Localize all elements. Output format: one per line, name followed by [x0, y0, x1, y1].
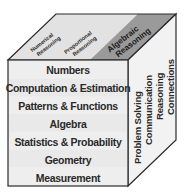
front-label-numbers: Numbers	[46, 64, 90, 76]
front-label-measurement: Measurement	[36, 172, 101, 184]
right-label-problem-solving: Problem Solving	[132, 91, 143, 164]
front-label-computation-estimation: Computation & Estimation	[6, 82, 131, 94]
right-label-communication: Communication	[143, 75, 154, 145]
front-label-geometry: Geometry	[45, 154, 92, 166]
front-label-algebra: Algebra	[50, 118, 87, 130]
right-label-connections: Connections	[165, 59, 176, 115]
right-label-reasoning: Reasoning	[154, 72, 165, 120]
front-label-patterns-functions: Patterns & Functions	[18, 100, 118, 112]
content-cube-diagram: Numerical Reasoning Proportional Reasoni…	[0, 0, 189, 192]
front-face: Numbers Computation & Estimation Pattern…	[6, 60, 131, 186]
front-label-statistics-probability: Statistics & Probability	[14, 136, 122, 148]
